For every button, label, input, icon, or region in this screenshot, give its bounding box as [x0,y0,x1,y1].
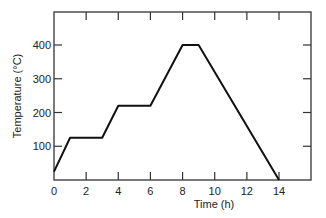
y-tick-label: 200 [33,107,51,119]
y-tick-label: 400 [33,39,51,51]
x-axis-label: Time (h) [194,198,235,210]
y-tick-labels: 100200300400 [33,39,51,152]
x-tick-labels: 02468101214 [51,185,285,197]
y-axis-label: Temperature (°C) [11,54,23,138]
x-tick-label: 2 [83,185,89,197]
y-tick-label: 100 [33,140,51,152]
y-tick-label: 300 [33,73,51,85]
x-tick-label: 8 [180,185,186,197]
axis-ticks [54,12,311,180]
x-tick-label: 4 [115,185,121,197]
x-tick-label: 10 [209,185,221,197]
x-tick-label: 6 [147,185,153,197]
plot-frame [54,12,311,180]
temperature-line [54,45,279,180]
x-tick-label: 12 [241,185,253,197]
x-tick-label: 14 [273,185,285,197]
x-tick-label: 0 [51,185,57,197]
temperature-time-chart: 02468101214 100200300400 Time (h) Temper… [0,0,326,218]
